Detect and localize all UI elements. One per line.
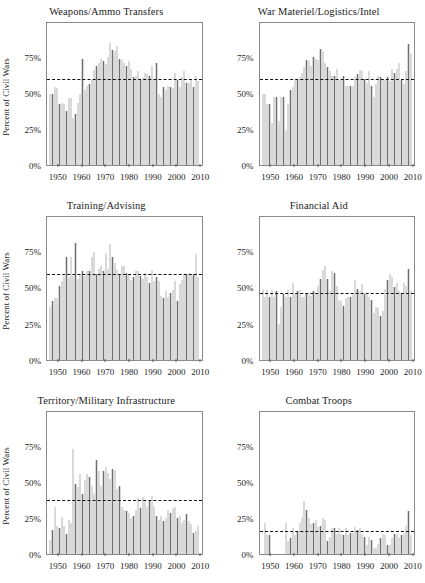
plot-area: 0%25%50%75% [259, 411, 416, 555]
x-axis: 1950196019701980199020002010 [46, 557, 203, 571]
plot-area: 0%25%50%75% [46, 411, 203, 555]
y-axis-tick-label: 50% [25, 89, 47, 99]
x-axis: 1950196019701980199020002010 [259, 557, 416, 571]
x-axis-tick-label: 1950 [261, 172, 279, 182]
panel-title: War Materiel/Logistics/Intel [213, 6, 425, 17]
plot-area: 0%25%50%75% [46, 216, 203, 360]
x-axis-tick-label: 2000 [167, 561, 185, 571]
x-axis-tick-mark [176, 553, 177, 556]
x-axis-tick-mark [294, 359, 295, 362]
x-axis-tick-label: 1990 [356, 367, 374, 377]
x-axis-tick-mark [341, 359, 342, 362]
x-axis-tick-label: 1960 [285, 172, 303, 182]
y-axis-tick-label: 75% [237, 247, 259, 257]
x-axis-tick-mark [152, 164, 153, 167]
x-axis-tick-mark [341, 553, 342, 556]
y-axis-tick-label: 75% [25, 53, 47, 63]
bar-series [262, 412, 413, 554]
x-axis-tick-mark [412, 359, 413, 362]
x-axis-tick-mark [105, 553, 106, 556]
x-axis-tick-label: 1980 [332, 367, 350, 377]
y-axis-label: Percent of Civil Wars [1, 231, 11, 351]
plot-frame [46, 411, 203, 555]
bar-series [262, 217, 413, 359]
y-axis-tick-label: 0% [29, 161, 46, 171]
x-axis-tick-label: 1950 [261, 561, 279, 571]
x-axis-tick-mark [412, 164, 413, 167]
x-axis-tick-label: 2010 [404, 367, 422, 377]
x-axis-tick-label: 2010 [191, 561, 209, 571]
x-axis-tick-label: 1980 [332, 561, 350, 571]
x-axis-tick-label: 1960 [73, 561, 91, 571]
y-axis-tick-label: 25% [237, 125, 259, 135]
x-axis-tick-mark [152, 359, 153, 362]
bar-series [262, 23, 413, 165]
x-axis-tick-mark [270, 164, 271, 167]
plot-area: 0%25%50%75% [259, 22, 416, 166]
y-axis-tick-label: 75% [237, 442, 259, 452]
y-axis-tick-label: 75% [25, 247, 47, 257]
plot-frame [46, 216, 203, 360]
plot-frame [46, 22, 203, 166]
mean-reference-line [260, 293, 415, 294]
x-axis-tick-label: 1970 [96, 367, 114, 377]
mean-reference-line [47, 274, 202, 275]
x-axis-tick-label: 1960 [73, 367, 91, 377]
bar [410, 535, 412, 554]
figure-panel-grid: Weapons/Ammo TransfersPercent of Civil W… [0, 0, 425, 583]
x-axis-tick-label: 2010 [404, 561, 422, 571]
x-axis: 1950196019701980199020002010 [46, 168, 203, 182]
x-axis-tick-label: 2000 [380, 561, 398, 571]
x-axis-tick-mark [128, 164, 129, 167]
x-axis-tick-label: 1960 [285, 367, 303, 377]
x-axis-tick-mark [388, 359, 389, 362]
y-axis-tick-label: 25% [25, 125, 47, 135]
x-axis-tick-label: 1990 [356, 561, 374, 571]
bar [197, 526, 199, 554]
x-axis-tick-mark [365, 553, 366, 556]
x-axis-tick-mark [176, 359, 177, 362]
x-axis-tick-mark [128, 359, 129, 362]
y-axis-tick-label: 25% [25, 514, 47, 524]
chart-panel: Financial Aid0%25%50%75%1950196019701980… [213, 194, 425, 388]
x-axis-tick-label: 1960 [285, 561, 303, 571]
y-axis-tick-label: 0% [242, 161, 259, 171]
bar [410, 291, 412, 359]
x-axis-tick-mark [270, 359, 271, 362]
x-axis-tick-label: 1970 [309, 561, 327, 571]
x-axis-tick-mark [81, 359, 82, 362]
x-axis-tick-mark [317, 553, 318, 556]
x-axis-tick-mark [341, 164, 342, 167]
mean-reference-line [260, 79, 415, 80]
plot-area: 0%25%50%75% [46, 22, 203, 166]
bar-series [49, 217, 200, 359]
x-axis-tick-label: 1970 [96, 172, 114, 182]
y-axis-tick-label: 25% [25, 320, 47, 330]
x-axis-tick-mark [412, 553, 413, 556]
y-axis-tick-label: 25% [237, 514, 259, 524]
x-axis: 1950196019701980199020002010 [259, 168, 416, 182]
x-axis-tick-mark [270, 553, 271, 556]
panel-title: Territory/Military Infrastructure [0, 395, 213, 406]
bar [410, 53, 412, 165]
x-axis-tick-mark [365, 359, 366, 362]
x-axis-tick-mark [200, 359, 201, 362]
y-axis-tick-label: 0% [29, 550, 46, 560]
y-axis-tick-label: 75% [237, 53, 259, 63]
x-axis-tick-label: 1990 [144, 172, 162, 182]
y-axis-tick-label: 0% [29, 356, 46, 366]
x-axis: 1950196019701980199020002010 [46, 363, 203, 377]
x-axis-tick-label: 1980 [120, 561, 138, 571]
x-axis-tick-mark [57, 359, 58, 362]
x-axis-tick-mark [152, 553, 153, 556]
x-axis-tick-label: 1950 [49, 561, 67, 571]
x-axis-tick-label: 2010 [191, 172, 209, 182]
x-axis-tick-mark [317, 359, 318, 362]
x-axis-tick-mark [294, 553, 295, 556]
bar [268, 535, 270, 554]
x-axis-tick-label: 1950 [49, 172, 67, 182]
x-axis-tick-mark [105, 359, 106, 362]
y-axis-tick-label: 0% [242, 550, 259, 560]
x-axis-tick-mark [388, 164, 389, 167]
y-axis-label: Percent of Civil Wars [1, 426, 11, 546]
